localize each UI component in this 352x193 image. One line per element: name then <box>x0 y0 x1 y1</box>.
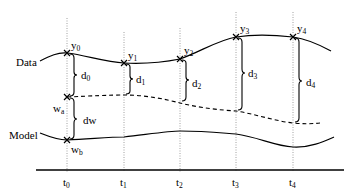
label-d2: d2 <box>192 77 202 91</box>
label-t1: t1 <box>120 176 127 190</box>
brace-d1 <box>126 64 133 94</box>
warped-curve-dashed <box>67 95 320 124</box>
label-t2: t2 <box>176 176 183 190</box>
label-t0: t0 <box>63 176 70 190</box>
label-t3: t3 <box>232 176 239 190</box>
brace-dw <box>70 98 77 139</box>
time-guides <box>67 12 293 172</box>
label-d0: d0 <box>81 69 91 83</box>
label-y0: y0 <box>71 39 81 53</box>
label-d4: d4 <box>306 76 316 90</box>
model-curve <box>40 131 334 147</box>
label-t4: t4 <box>289 176 296 190</box>
brace-d3 <box>238 38 245 110</box>
label-y1: y1 <box>128 49 138 63</box>
model-series-label: Model <box>9 129 38 141</box>
label-y3: y3 <box>240 22 250 36</box>
label-dw: dw <box>83 114 97 126</box>
brace-d4 <box>295 38 302 122</box>
brace-d0 <box>70 54 77 96</box>
label-d1: d1 <box>136 73 146 87</box>
time-warp-diagram: Data Model y0 y1 y2 y3 y4 d0 d1 d2 d3 d4… <box>0 0 352 193</box>
label-d3: d3 <box>248 67 258 81</box>
data-series-label: Data <box>16 56 37 68</box>
label-wa: wa <box>53 102 65 116</box>
brace-d2 <box>182 60 189 101</box>
label-wb: wb <box>71 143 83 157</box>
label-y4: y4 <box>297 22 307 36</box>
label-y2: y2 <box>184 44 194 58</box>
